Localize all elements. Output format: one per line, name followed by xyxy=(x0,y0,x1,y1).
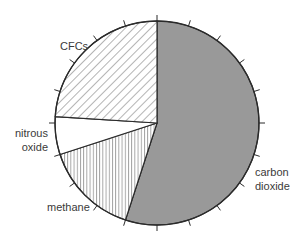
slice-cfcs xyxy=(55,21,157,123)
tick-mark xyxy=(124,220,126,226)
tick-mark xyxy=(189,220,191,226)
tick-mark xyxy=(189,20,191,26)
label-nitrous-oxide-line2: oxide xyxy=(22,141,48,153)
tick-mark xyxy=(70,183,75,187)
label-methane: methane xyxy=(47,201,90,213)
pie-chart: CFCs nitrous oxide methane carbon dioxid… xyxy=(0,0,299,238)
label-nitrous-oxide-line1: nitrous xyxy=(15,127,49,139)
tick-mark xyxy=(94,206,98,211)
tick-mark xyxy=(240,183,245,187)
tick-mark xyxy=(124,20,126,26)
label-carbon-dioxide-line1: carbon xyxy=(255,166,289,178)
label-carbon-dioxide-line2: dioxide xyxy=(255,180,290,192)
tick-mark xyxy=(70,60,75,64)
tick-mark xyxy=(94,36,98,41)
tick-mark xyxy=(54,90,60,92)
tick-mark xyxy=(217,206,221,211)
tick-mark xyxy=(54,155,60,157)
label-cfcs: CFCs xyxy=(60,40,89,52)
tick-mark xyxy=(240,60,245,64)
tick-mark xyxy=(217,36,221,41)
tick-mark xyxy=(254,90,260,92)
tick-mark xyxy=(254,155,260,157)
